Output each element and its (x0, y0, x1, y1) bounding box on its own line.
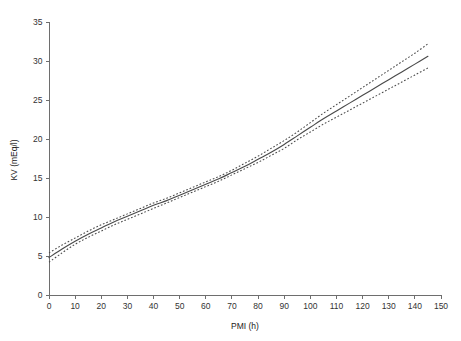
chart-page: 05101520253035 0102030405060708090100110… (0, 0, 461, 341)
x-axis-tick-label: 100 (303, 301, 317, 311)
x-axis-tick-label: 20 (97, 301, 107, 311)
x-axis-tick-label: 110 (330, 301, 344, 311)
x-axis-tick-label: 80 (253, 301, 263, 311)
x-axis-tick-label: 70 (227, 301, 237, 311)
x-axis-tick-label: 10 (70, 301, 80, 311)
y-axis-tick-label: 0 (38, 290, 43, 300)
y-axis-tick-label: 10 (33, 212, 43, 222)
x-axis-tick-label: 0 (47, 301, 52, 311)
x-axis-tick-label: 150 (434, 301, 448, 311)
y-axis-tick-label: 25 (33, 95, 43, 105)
x-axis-tick-label: 120 (356, 301, 370, 311)
x-axis-tick-label: 60 (201, 301, 211, 311)
y-axis-tick-label: 5 (38, 251, 43, 261)
x-axis-tick-label: 140 (408, 301, 422, 311)
y-axis-tick-label: 30 (33, 56, 43, 66)
x-axis-title: PMI (h) (231, 321, 259, 331)
x-axis-tick-label: 40 (149, 301, 159, 311)
y-axis-title: KV (mEq/l) (9, 139, 19, 180)
y-axis-tick-label: 20 (33, 134, 43, 144)
y-axis-tick-label: 35 (33, 17, 43, 27)
kv-vs-pmi-scatter-plot: 05101520253035 0102030405060708090100110… (0, 0, 461, 341)
x-axis-tick-label: 130 (382, 301, 396, 311)
x-axis-tick-label: 50 (175, 301, 185, 311)
y-axis-tick-label: 15 (33, 173, 43, 183)
x-axis-tick-label: 90 (279, 301, 289, 311)
x-axis-tick-label: 30 (123, 301, 133, 311)
